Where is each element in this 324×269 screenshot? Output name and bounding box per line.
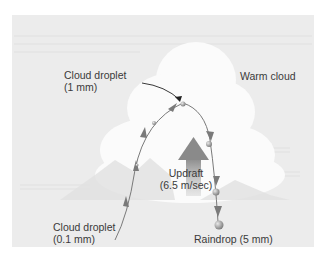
raindrop-label: Raindrop (5 mm) [194, 233, 273, 245]
updraft-name: Updraft [147, 167, 225, 179]
warm-cloud-diagram: Cloud droplet (1 mm) Warm cloud Updraft … [0, 0, 324, 269]
start-droplet-label: Cloud droplet (0.1 mm) [53, 221, 115, 245]
start-droplet-size: (0.1 mm) [53, 233, 115, 245]
droplet-1mm [181, 102, 186, 107]
raindrop-5mm [215, 221, 224, 230]
top-droplet-size: (1 mm) [64, 81, 126, 93]
diagram-graphic [0, 0, 324, 269]
updraft-speed: (6.5 m/sec) [147, 179, 225, 191]
top-droplet-label: Cloud droplet (1 mm) [64, 69, 126, 93]
warm-cloud-label: Warm cloud [240, 70, 296, 82]
top-droplet-name: Cloud droplet [64, 69, 126, 81]
updraft-label: Updraft (6.5 m/sec) [147, 167, 225, 191]
start-droplet-name: Cloud droplet [53, 221, 115, 233]
